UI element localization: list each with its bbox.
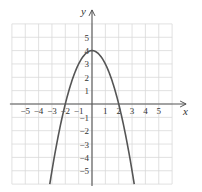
x-tick-label: 5 bbox=[157, 106, 162, 116]
y-tick-label: 2 bbox=[85, 73, 90, 83]
x-tick-label: 3 bbox=[130, 106, 135, 116]
y-tick-label: −2 bbox=[79, 126, 89, 136]
y-tick-label: 5 bbox=[85, 33, 90, 43]
x-tick-label: 4 bbox=[143, 106, 148, 116]
x-tick-label: −4 bbox=[34, 106, 44, 116]
x-tick-label: −3 bbox=[47, 106, 57, 116]
axes bbox=[10, 10, 186, 186]
parabola-chart: −5−4−3−2−112345−5−4−3−2−112345 x y bbox=[0, 0, 202, 192]
y-tick-label: −5 bbox=[79, 166, 89, 176]
x-tick-label: −5 bbox=[20, 106, 30, 116]
y-axis-label: y bbox=[80, 5, 86, 17]
y-tick-label: 1 bbox=[85, 86, 90, 96]
x-tick-label: 1 bbox=[103, 106, 108, 116]
y-tick-label: −3 bbox=[79, 140, 89, 150]
x-tick-label: −2 bbox=[61, 106, 71, 116]
y-tick-label: −4 bbox=[79, 153, 89, 163]
y-tick-label: 3 bbox=[85, 59, 90, 69]
y-tick-label: −1 bbox=[79, 113, 89, 123]
x-axis-label: x bbox=[182, 105, 188, 117]
